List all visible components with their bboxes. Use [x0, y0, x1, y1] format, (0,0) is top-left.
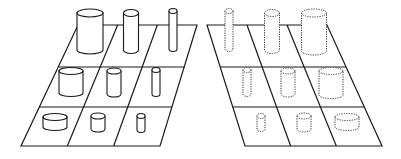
cylinder-icon	[169, 9, 177, 52]
cylinder-grid-diagram	[0, 0, 401, 159]
left-grid-solid-cylinders	[21, 9, 197, 147]
cylinder-icon	[43, 114, 67, 131]
cylinder-icon	[225, 9, 233, 52]
cylinder-icon	[152, 68, 160, 97]
cylinder-icon	[297, 113, 311, 132]
cylinder-icon	[124, 10, 139, 54]
cylinder-icon	[302, 9, 327, 55]
cylinder-icon	[319, 68, 343, 99]
cylinder-icon	[107, 68, 121, 97]
cylinder-icon	[257, 114, 265, 132]
cylinder-icon	[243, 68, 251, 97]
cylinder-icon	[137, 114, 145, 133]
cylinder-icon	[59, 68, 83, 97]
cylinder-icon	[335, 114, 359, 131]
right-grid-dotted-cylinders	[207, 9, 382, 147]
cylinder-icon	[265, 10, 280, 54]
cylinder-icon	[91, 113, 105, 132]
cylinder-icon	[77, 9, 103, 54]
cylinder-icon	[281, 68, 295, 97]
